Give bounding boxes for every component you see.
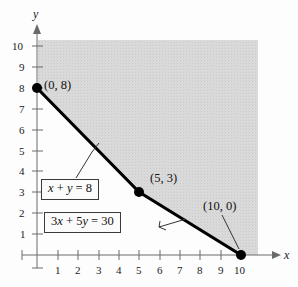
point-label-5-3: (5, 3) (150, 172, 177, 185)
eq1-plus: + (54, 181, 67, 195)
y-tick-label-9: 9 (19, 62, 25, 73)
vertex-point-0-8 (32, 83, 42, 93)
y-tick-label-2: 2 (19, 208, 25, 219)
x-axis-label: x (284, 249, 289, 261)
equation-box-constraint-2: 3x + 5y = 30 (44, 212, 121, 233)
x-tick-label-6: 6 (157, 265, 163, 276)
y-tick-label-7: 7 (19, 104, 25, 115)
y-tick-label-5: 5 (19, 146, 25, 157)
y-axis-label: y (33, 8, 38, 20)
y-axis-arrowhead (33, 24, 41, 34)
x-tick-label-3: 3 (96, 265, 102, 276)
leader-line-constraint-1 (76, 143, 99, 178)
x-tick-label-7: 7 (177, 265, 183, 276)
x-tick-label-4: 4 (116, 265, 122, 276)
x-axis-arrowhead (272, 251, 281, 259)
x-tick-label-9: 9 (218, 265, 224, 276)
x-tick-label-5: 5 (136, 265, 142, 276)
eq1-rhs: = 8 (72, 181, 92, 195)
eq2-rhs: = 30 (88, 214, 114, 228)
y-tick-label-6: 6 (19, 125, 25, 136)
y-tick-label-4: 4 (19, 166, 25, 177)
coordinate-plane (0, 0, 298, 287)
y-tick-label-3: 3 (19, 187, 25, 198)
x-tick-label-8: 8 (197, 265, 203, 276)
eq2-plus: + (63, 214, 76, 228)
leader-line-constraint-2 (159, 219, 186, 230)
y-tick-label-1: 1 (20, 229, 26, 240)
point-label-0-8: (0, 8) (44, 79, 71, 92)
x-tick-label-2: 2 (75, 265, 81, 276)
x-tick-label-10: 10 (234, 265, 245, 276)
y-tick-label-10: 10 (12, 41, 23, 52)
x-tick-label-1: 1 (55, 265, 61, 276)
equation-box-constraint-1: x + y = 8 (41, 179, 99, 200)
y-tick-label-8: 8 (19, 83, 25, 94)
vertex-point-10-0 (236, 250, 246, 260)
graph-figure: 10 9 8 7 6 5 4 3 2 1 1 2 3 4 5 6 7 8 9 1… (0, 0, 298, 287)
point-label-10-0: (10, 0) (203, 200, 236, 213)
vertex-point-5-3 (134, 187, 144, 197)
